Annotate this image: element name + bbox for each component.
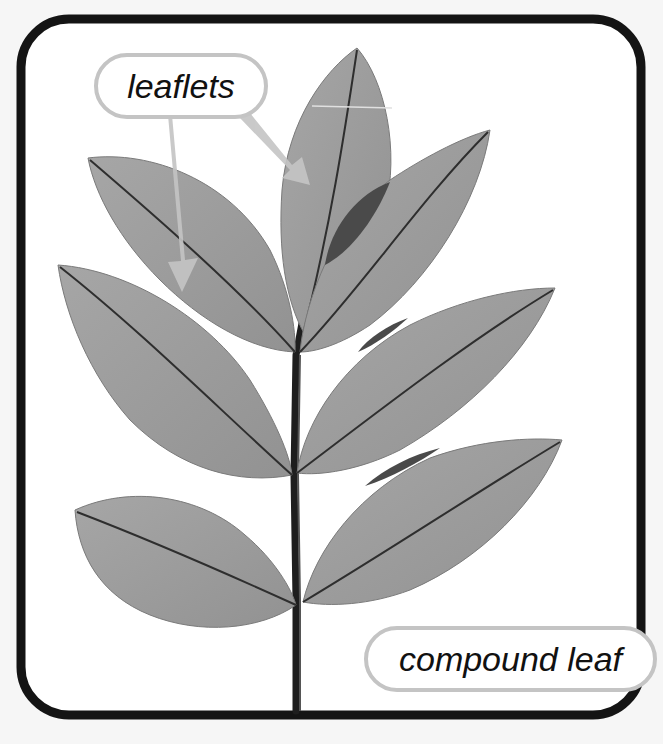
compound-leaf-label: compound leaf	[364, 626, 657, 692]
leaflets-label-text: leaflets	[127, 67, 235, 106]
leaflets-label: leaflets	[94, 53, 268, 119]
compound-leaf-label-text: compound leaf	[399, 640, 622, 679]
